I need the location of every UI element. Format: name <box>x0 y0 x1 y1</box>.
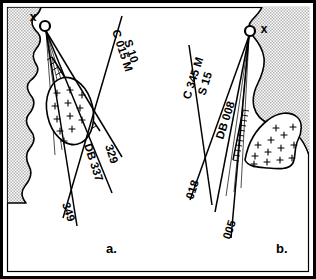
panel-b-caption: b. <box>276 241 288 256</box>
panel-b-x-marker: x <box>261 22 268 36</box>
figure-svg: x <box>0 0 316 279</box>
panel-a-station-circle[interactable] <box>40 21 50 31</box>
figure-container: x <box>0 0 316 279</box>
panel-a-x-marker: x <box>30 10 37 24</box>
panel-b-station-circle[interactable] <box>245 26 255 36</box>
panel-a-caption: a. <box>106 241 117 256</box>
